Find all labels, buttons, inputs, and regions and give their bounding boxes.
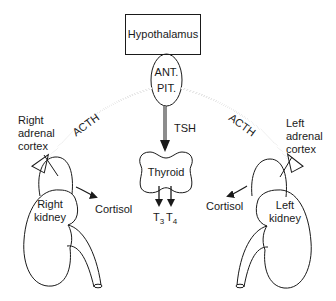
hypothalamus-label: Hypothalamus: [128, 28, 199, 40]
right-adrenal-label-2: adrenal: [18, 127, 55, 139]
acth-arrow-left-adrenal: ACTH: [181, 88, 303, 172]
thyroid: Thyroid T3 T4: [140, 152, 193, 226]
t3-label: T3: [153, 211, 165, 226]
left-kidney-label-1: Left: [276, 199, 294, 211]
right-cortisol-label: Cortisol: [95, 203, 132, 215]
left-kidney-label-2: kidney: [269, 212, 301, 224]
left-adrenal-kidney: Left adrenal cortex Left kidney Cortisol: [206, 117, 323, 288]
right-adrenal-kidney: Right adrenal cortex Right kidney Cortis…: [18, 114, 132, 288]
pituitary-label-line2: PIT.: [157, 82, 176, 94]
right-kidney-label-2: kidney: [34, 211, 66, 223]
left-adrenal-label-3: cortex: [286, 143, 316, 155]
endocrine-diagram: Hypothalamus ANT. PIT. ACTH ACTH TSH Thy…: [0, 0, 336, 301]
left-adrenal-label-2: adrenal: [286, 130, 323, 142]
right-adrenal-label-1: Right: [18, 114, 44, 126]
tsh-label: TSH: [174, 122, 196, 134]
anterior-pituitary: ANT. PIT.: [151, 54, 182, 106]
left-adrenal-label-1: Left: [286, 117, 304, 129]
right-kidney-label-1: Right: [37, 198, 63, 210]
tsh-arrow: TSH: [160, 106, 196, 152]
thyroid-label: Thyroid: [148, 166, 185, 178]
t4-label: T4: [166, 211, 178, 226]
pituitary-label-line1: ANT.: [155, 66, 179, 78]
left-cortisol-label: Cortisol: [206, 200, 243, 212]
acth-label-left: ACTH: [70, 111, 101, 138]
right-adrenal-label-3: cortex: [18, 140, 48, 152]
hypothalamus-box: Hypothalamus: [126, 15, 201, 55]
